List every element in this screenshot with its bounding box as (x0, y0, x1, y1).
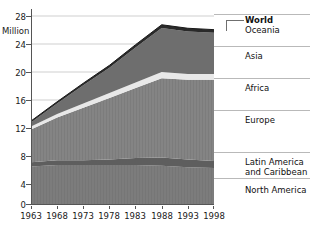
legend-leader-horizontal (226, 20, 244, 21)
chart-figure: 28 Million 24 20 16 12 8 4 0 (0, 0, 310, 230)
legend-label-asia[interactable]: Asia (245, 52, 263, 62)
legend-divider-6 (214, 178, 310, 179)
legend-label-europe[interactable]: Europe (245, 116, 275, 126)
x-tick-mark-1993 (188, 206, 189, 209)
x-tick-mark-1963 (31, 206, 32, 209)
x-tick-label-1993: 1993 (175, 212, 201, 221)
x-tick-label-1998: 1998 (201, 212, 227, 221)
x-tick-label-1983: 1983 (122, 212, 148, 221)
legend-label-latin-america[interactable]: Latin America and Caribbean (245, 158, 307, 177)
legend-divider-4 (214, 110, 310, 111)
legend-label-africa[interactable]: Africa (245, 84, 269, 94)
y-tick-label-12: 12 (2, 125, 26, 133)
legend-divider-2 (214, 46, 310, 47)
y-tick-label-4: 4 (2, 181, 26, 189)
y-tick-label-24: 24 (2, 41, 26, 49)
legend-label-oceania[interactable]: Oceania (245, 26, 280, 36)
area-band-north-america (31, 165, 214, 205)
y-axis: 28 Million 24 20 16 12 8 4 0 (0, 0, 26, 230)
x-tick-label-1988: 1988 (149, 212, 175, 221)
legend-leader-vertical (226, 20, 227, 31)
legend: World Oceania Asia Africa Europe Latin A… (214, 0, 310, 210)
legend-divider-3 (214, 78, 310, 79)
x-tick-mark-1983 (135, 206, 136, 209)
x-tick-label-1963: 1963 (18, 212, 44, 221)
x-tick-mark-1978 (109, 206, 110, 209)
x-tick-mark-1968 (57, 206, 58, 209)
x-tick-label-1973: 1973 (70, 212, 96, 221)
area-bands (31, 25, 214, 205)
stacked-area-svg (31, 9, 214, 205)
y-tick-label-20: 20 (2, 69, 26, 77)
y-tick-label-16: 16 (2, 97, 26, 105)
plot-area (31, 9, 214, 205)
x-tick-label-1968: 1968 (44, 212, 70, 221)
y-tick-label-8: 8 (2, 153, 26, 161)
legend-divider-5 (214, 152, 310, 153)
legend-label-north-america[interactable]: North America (245, 186, 307, 196)
x-tick-mark-1973 (83, 206, 84, 209)
y-tick-label-28: 28 (2, 13, 26, 21)
x-tick-mark-1988 (162, 206, 163, 209)
x-tick-label-1978: 1978 (96, 212, 122, 221)
